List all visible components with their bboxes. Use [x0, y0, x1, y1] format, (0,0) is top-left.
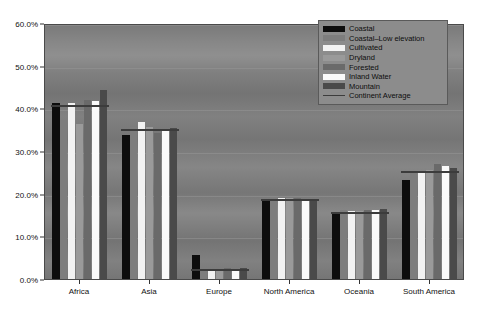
legend-item[interactable]: Mountain: [323, 82, 443, 92]
bar: [146, 127, 153, 279]
legend-item-label: Forested: [349, 63, 379, 72]
x-axis-tick-mark: [149, 280, 150, 284]
legend-item[interactable]: Inland Water: [323, 72, 443, 82]
x-axis-tick-mark: [429, 280, 430, 284]
legend-item-label: Coastal–Low elevation: [349, 34, 424, 43]
bar: [356, 211, 363, 279]
legend-item-label: Inland Water: [349, 72, 391, 81]
legend-color-swatch-icon: [323, 45, 345, 51]
bar: [100, 90, 107, 279]
bar: [380, 209, 387, 279]
bar: [442, 166, 449, 279]
gridline: [45, 238, 463, 239]
bar: [294, 198, 301, 279]
legend-item-label: Mountain: [349, 82, 380, 91]
continent-average-line: [331, 212, 389, 214]
legend-color-swatch-icon: [323, 64, 345, 70]
x-axis-tick-label: Africa: [69, 287, 89, 296]
gridline: [45, 196, 463, 197]
bar: [60, 120, 67, 279]
bar: [402, 180, 409, 279]
gridline: [45, 153, 463, 154]
bar: [192, 255, 199, 279]
legend-item[interactable]: Coastal–Low elevation: [323, 34, 443, 44]
bar: [154, 133, 161, 279]
x-axis-tick-mark: [359, 280, 360, 284]
chart-legend: CoastalCoastal–Low elevationCultivatedDr…: [318, 20, 448, 105]
bar: [270, 197, 277, 279]
bar: [434, 164, 441, 279]
legend-color-swatch-icon: [323, 26, 345, 32]
y-axis-tick-label: 0.0%: [0, 276, 38, 285]
bar: [76, 124, 83, 279]
x-axis-tick-label: Europe: [206, 287, 232, 296]
bar: [162, 129, 169, 279]
bar: [278, 198, 285, 279]
x-axis-tick-label: Oceania: [344, 287, 374, 296]
continent-average-line: [191, 269, 249, 271]
legend-color-swatch-icon: [323, 55, 345, 61]
y-axis-tick-label: 30.0%: [0, 148, 38, 157]
legend-color-swatch-icon: [323, 74, 345, 80]
legend-color-swatch-icon: [323, 35, 345, 41]
legend-item[interactable]: Cultivated: [323, 43, 443, 53]
continent-average-line: [401, 171, 459, 173]
bar: [310, 200, 317, 279]
legend-line-swatch-icon: [323, 95, 345, 96]
bar: [68, 103, 75, 279]
y-axis-tick-label: 40.0%: [0, 105, 38, 114]
legend-item-label: Continent Average: [349, 91, 411, 100]
continent-average-line: [51, 105, 109, 107]
bar: [52, 103, 59, 279]
continent-average-line: [261, 199, 319, 201]
bar: [170, 128, 177, 279]
y-axis-tick-label: 10.0%: [0, 233, 38, 242]
bar: [302, 199, 309, 279]
continent-average-line: [121, 129, 179, 131]
x-axis-tick-label: Asia: [141, 287, 157, 296]
bar: [372, 210, 379, 279]
bar: [92, 101, 99, 279]
bar-chart-figure: 0.0%10.0%20.0%30.0%40.0%50.0%60.0% Afric…: [0, 0, 481, 312]
legend-color-swatch-icon: [323, 83, 345, 89]
bar: [286, 198, 293, 279]
y-axis-tick-label: 50.0%: [0, 62, 38, 71]
bar: [364, 210, 371, 279]
bar: [426, 170, 433, 279]
bar: [262, 200, 269, 279]
legend-item-label: Cultivated: [349, 43, 382, 52]
bar: [84, 100, 91, 279]
bar: [340, 210, 347, 279]
y-axis-tick-label: 20.0%: [0, 190, 38, 199]
x-axis-tick-mark: [219, 280, 220, 284]
bar: [348, 211, 355, 279]
legend-item[interactable]: Coastal: [323, 24, 443, 34]
bar: [332, 214, 339, 279]
gridline: [45, 110, 463, 111]
legend-item-label: Coastal: [349, 24, 374, 33]
legend-item[interactable]: Continent Average: [323, 91, 443, 101]
bar: [122, 135, 129, 279]
y-axis-tick-label: 60.0%: [0, 20, 38, 29]
bar: [450, 168, 457, 279]
legend-item[interactable]: Dryland: [323, 53, 443, 63]
bar: [418, 171, 425, 279]
x-axis-tick-label: South America: [403, 287, 455, 296]
bar: [130, 127, 137, 279]
legend-item[interactable]: Forested: [323, 62, 443, 72]
bar: [138, 122, 145, 279]
bar: [410, 172, 417, 279]
legend-item-label: Dryland: [349, 53, 375, 62]
x-axis-tick-label: North America: [264, 287, 315, 296]
x-axis-tick-mark: [289, 280, 290, 284]
x-axis-tick-mark: [79, 280, 80, 284]
